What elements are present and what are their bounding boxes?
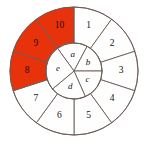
outer-sector-label-5: 5: [86, 110, 91, 120]
outer-sector-label-8: 8: [25, 65, 30, 75]
figure-root: 12345678910 abcde: [0, 0, 147, 142]
outer-sector-label-4: 4: [110, 93, 115, 103]
outer-sector-label-6: 6: [57, 110, 62, 120]
outer-sector-label-1: 1: [86, 20, 91, 30]
outer-sector-label-2: 2: [110, 38, 115, 48]
inner-sector-label-b: b: [86, 57, 91, 67]
inner-sector-label-e: e: [56, 63, 60, 73]
inner-sector-label-a: a: [71, 49, 76, 59]
wheel-diagram: 12345678910 abcde: [0, 0, 147, 142]
outer-sector-label-9: 9: [34, 38, 39, 48]
outer-sector-label-7: 7: [34, 93, 39, 103]
inner-sector-label-d: d: [68, 81, 73, 91]
inner-sector-label-c: c: [86, 74, 90, 84]
outer-sector-label-10: 10: [55, 20, 65, 30]
outer-sector-label-3: 3: [119, 65, 124, 75]
